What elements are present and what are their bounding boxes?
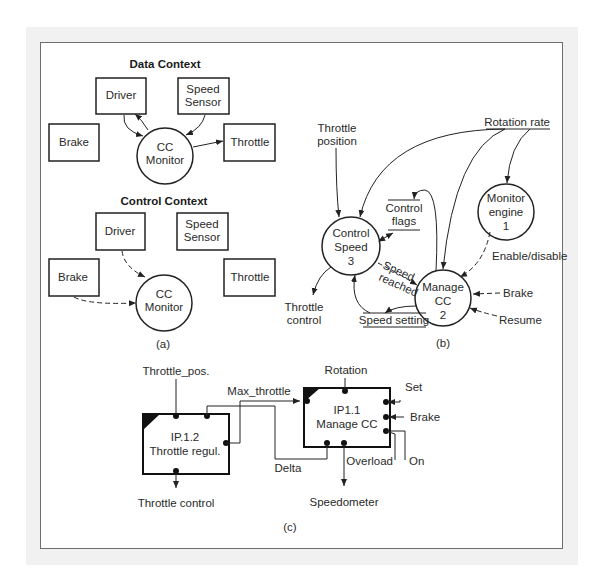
enable-disable-flow [460,232,490,277]
data-speed-sensor-box: Speed Sensor [178,78,229,114]
svg-text:2: 2 [440,309,446,321]
cruise-control-diagram: Data Context Driver Speed Sensor Brake T… [0,0,604,583]
svg-text:IP.1.2: IP.1.2 [171,431,200,443]
max-throttle-label: Max_throttle [227,385,290,397]
throttle-position-flow [336,148,339,217]
svg-text:1: 1 [503,220,509,232]
svg-text:IP1.1: IP1.1 [334,404,361,416]
rotation-to-monitor-engine-flow [507,129,530,183]
svg-text:Manage: Manage [422,281,464,293]
svg-text:flags: flags [392,215,417,227]
control-flags-store: Control flags [385,200,422,230]
control-flags-bidirectional-flow [379,233,393,241]
rotation-rate-label: Rotation rate [484,116,550,128]
data-throttle-box: Throttle [224,124,275,161]
throttle-control-label-c: Throttle control [138,497,215,509]
throttle-position-label-2: position [317,135,357,147]
svg-text:Speed: Speed [186,83,219,95]
svg-text:Control: Control [385,202,422,214]
svg-text:Manage CC: Manage CC [316,418,377,430]
svg-text:Monitor: Monitor [146,154,185,166]
speed-setting-to-control-speed-flow [354,275,370,313]
svg-text:Speed: Speed [334,241,367,253]
driver-to-monitor-flow [124,115,143,136]
svg-text:Speed setting: Speed setting [359,314,429,326]
set-label: Set [405,381,423,393]
svg-text:Throttle: Throttle [231,271,270,283]
control-throttle-box: Throttle [224,259,275,296]
manage-cc-to-speed-setting-flow [385,306,416,313]
speedometer-label: Speedometer [309,496,378,508]
svg-text:CC: CC [157,141,174,153]
brake-to-monitor-control-flow [74,297,136,303]
svg-text:Throttle regul.: Throttle regul. [150,445,221,457]
speed-setting-store: Speed setting [359,313,429,327]
control-brake-box: Brake [49,259,99,296]
brake-label: Brake [503,287,533,299]
svg-text:Throttle: Throttle [231,136,270,148]
svg-text:Control: Control [332,227,369,239]
svg-text:CC: CC [435,295,452,307]
control-cc-monitor-process: CC Monitor [136,275,192,331]
monitor-to-driver-flow [135,114,148,130]
throttle-control-label-1: Throttle [285,301,324,313]
brake-flow [473,293,500,294]
monitor-to-throttle-flow [193,141,223,147]
data-driver-box: Driver [96,78,146,114]
resume-flow [470,308,497,316]
svg-text:Speed: Speed [185,218,218,230]
data-cc-monitor-process: CC Monitor [137,128,193,184]
resume-label: Resume [499,314,542,326]
monitor-engine-process: Monitor engine 1 [478,184,534,240]
svg-text:Driver: Driver [106,89,137,101]
svg-text:CC: CC [156,288,173,300]
svg-text:Monitor: Monitor [487,192,526,204]
control-context: Control Context Driver Speed Sensor Brak… [49,195,275,350]
caption-c: (c) [283,521,297,533]
driver-to-monitor-control-flow [122,251,145,277]
svg-text:Monitor: Monitor [145,301,184,313]
enable-disable-label: Enable/disable [492,250,567,262]
ip12-throttle-regul-block: IP.1.2 Throttle regul. [143,413,229,474]
sensor-to-monitor-flow [186,115,205,135]
svg-text:3: 3 [348,255,354,267]
caption-a: (a) [156,338,170,350]
throttle-control-label-2: control [287,314,322,326]
control-speed-process: Control Speed 3 [322,217,380,275]
data-brake-box: Brake [49,124,99,161]
throttle-control-flow [313,267,331,295]
throttle-pos-label: Throttle_pos. [142,365,209,377]
overload-label: Overload [346,455,393,467]
ip11-manage-cc-block: IP1.1 Manage CC [304,388,390,447]
svg-text:Driver: Driver [105,225,136,237]
svg-text:engine: engine [489,206,524,218]
panel-c-block-diagram: Throttle_pos. IP.1.2 Throttle regul. IP1… [138,364,440,533]
svg-text:Brake: Brake [59,136,89,148]
svg-text:Brake: Brake [58,271,88,283]
rotation-label: Rotation [325,364,368,376]
svg-text:Sensor: Sensor [185,96,222,108]
data-context: Data Context Driver Speed Sensor Brake T… [49,58,275,184]
control-driver-box: Driver [96,213,145,250]
svg-text:Sensor: Sensor [184,231,221,243]
panel-b-dataflow: Rotation rate Throttle position Control … [285,116,568,349]
on-label: On [409,455,424,467]
caption-b: (b) [436,337,450,349]
brake-label-c: Brake [410,411,440,423]
control-context-title: Control Context [121,195,208,207]
throttle-position-label-1: Throttle [318,122,357,134]
delta-label: Delta [275,462,302,474]
max-throttle-wire [226,401,300,443]
data-context-title: Data Context [130,58,201,70]
control-speed-sensor-box: Speed Sensor [177,213,228,250]
